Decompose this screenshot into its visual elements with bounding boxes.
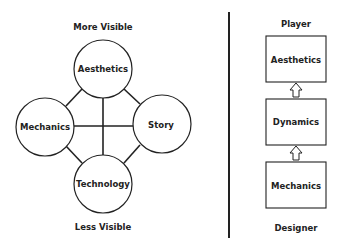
connector-lines (66, 89, 140, 163)
node-label-aesthetics: Aesthetics (78, 64, 128, 74)
box-label-mechanics: Mechanics (271, 181, 321, 191)
line-aesthetics-mechanics (66, 89, 82, 106)
arrow-up-icon (290, 146, 302, 160)
line-story-technology (124, 145, 140, 163)
line-aesthetics-story (124, 89, 140, 104)
more-visible-label: More Visible (73, 22, 133, 32)
node-label-technology: Technology (76, 179, 130, 189)
line-mechanics-technology (66, 146, 82, 163)
box-label-aesthetics: Aesthetics (271, 55, 321, 65)
box-label-dynamics: Dynamics (273, 117, 319, 127)
arrow-up-icon (290, 83, 302, 97)
designer-label: Designer (275, 223, 319, 233)
player-label: Player (281, 19, 312, 29)
diagram-canvas: More Visible Aesthetics Mechanics Story … (0, 0, 341, 249)
less-visible-label: Less Visible (75, 222, 132, 232)
node-label-story: Story (148, 120, 174, 130)
node-label-mechanics: Mechanics (20, 122, 70, 132)
